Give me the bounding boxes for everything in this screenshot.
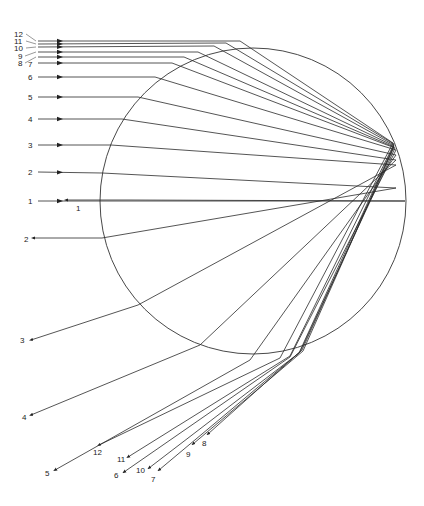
incoming-ray-9 — [38, 52, 394, 146]
outgoing-label-6: 6 — [114, 471, 119, 480]
outgoing-label-4: 4 — [22, 413, 27, 422]
outgoing-label-11: 11 — [117, 455, 126, 464]
outgoing-ray-12 — [99, 358, 280, 445]
outgoing-ray-11 — [128, 356, 290, 457]
arrowhead-icon — [57, 50, 63, 54]
incoming-label-6: 6 — [28, 73, 33, 82]
arrowhead-icon — [57, 199, 63, 203]
arrowhead-icon — [57, 95, 63, 99]
incoming-label-4: 4 — [28, 115, 33, 124]
leader-line — [26, 41, 36, 44]
internal-ray-3 — [138, 165, 396, 305]
incoming-label-5: 5 — [28, 93, 33, 102]
arrowhead-icon — [57, 75, 63, 79]
incoming-label-7: 7 — [28, 60, 33, 69]
incoming-rays — [38, 39, 405, 203]
incoming-label-9: 9 — [18, 52, 23, 61]
incoming-label-2: 2 — [28, 168, 33, 177]
diagram-canvas: 123456789101112123456789101112 — [0, 0, 424, 506]
incoming-ray-2 — [38, 172, 396, 188]
outgoing-label-1: 1 — [76, 204, 81, 213]
outgoing-label-3: 3 — [20, 336, 25, 345]
outgoing-rays — [31, 200, 303, 472]
arrowhead-icon — [57, 61, 63, 65]
incoming-ray-3 — [38, 145, 396, 165]
outgoing-label-12: 12 — [93, 448, 102, 457]
incoming-ray-6 — [38, 77, 396, 150]
internal-ray-11 — [290, 144, 394, 356]
outgoing-label-2: 2 — [24, 235, 29, 244]
leader-line — [25, 52, 36, 56]
internal-ray-12 — [280, 143, 393, 358]
arrowhead-icon — [57, 55, 63, 59]
outgoing-label-5: 5 — [45, 469, 50, 478]
outgoing-ray-3 — [31, 305, 138, 340]
incoming-label-1: 1 — [28, 197, 33, 206]
internal-ray-4 — [200, 160, 396, 345]
incoming-ray-11 — [38, 43, 394, 144]
arrowhead-icon — [57, 170, 63, 174]
incoming-ray-5 — [38, 97, 396, 155]
outgoing-label-8: 8 — [202, 439, 207, 448]
arrowhead-icon — [57, 143, 63, 147]
internal-ray-5 — [250, 155, 396, 360]
outgoing-ray-9 — [193, 351, 303, 444]
outgoing-ray-6 — [124, 357, 290, 472]
outgoing-label-7: 7 — [151, 475, 156, 484]
incoming-label-3: 3 — [28, 141, 33, 150]
arrowhead-icon — [57, 39, 63, 43]
arrowhead-icon — [57, 117, 63, 121]
outgoing-label-9: 9 — [186, 450, 191, 459]
internal-ray-6 — [290, 150, 396, 357]
outgoing-label-10: 10 — [136, 466, 145, 475]
leader-line — [26, 34, 36, 41]
outgoing-ray-7 — [159, 352, 300, 470]
raindrop-ray-diagram: 123456789101112123456789101112 — [0, 0, 424, 506]
leader-line — [26, 47, 36, 48]
incoming-label-12: 12 — [14, 30, 23, 39]
incoming-ray-12 — [38, 41, 393, 143]
outgoing-ray-5 — [55, 360, 250, 470]
outgoing-ray-4 — [31, 345, 200, 415]
